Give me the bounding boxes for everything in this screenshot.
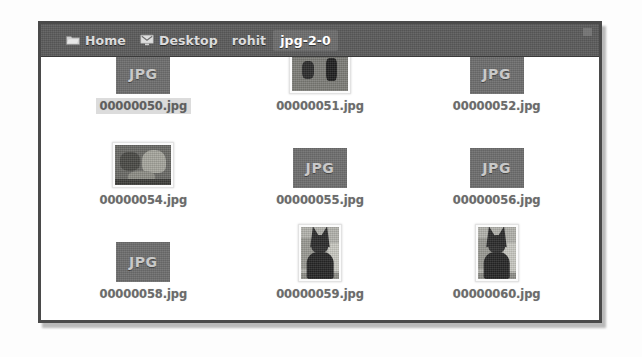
file-name-label: 00000059.jpg	[272, 286, 368, 302]
photo-thumbnail-icon	[112, 142, 174, 188]
jpg-placeholder-icon: JPG	[293, 148, 347, 188]
file-name-label: 00000060.jpg	[449, 286, 545, 302]
breadcrumb[interactable]: Home Desktop rohit jpg-2-0	[41, 24, 599, 57]
file-item[interactable]: JPG 00000056.jpg	[408, 130, 585, 224]
jpg-placeholder-icon: JPG	[116, 54, 170, 94]
photo-thumbnail-icon	[298, 224, 342, 282]
file-thumbnail[interactable]: JPG	[293, 130, 347, 188]
file-name-label: 00000050.jpg	[96, 98, 192, 114]
file-item[interactable]: 00000060.jpg	[408, 224, 585, 318]
jpg-placeholder-icon: JPG	[470, 148, 524, 188]
file-thumbnail[interactable]: JPG	[470, 130, 524, 188]
home-folder-icon	[66, 34, 80, 46]
file-grid-row: JPG 00000058.jpg	[55, 224, 585, 318]
file-item[interactable]: 00000054.jpg	[55, 130, 232, 224]
file-name-label: 00000052.jpg	[449, 98, 545, 114]
file-thumbnail[interactable]	[475, 224, 519, 282]
window-control-nub[interactable]	[583, 28, 592, 36]
breadcrumb-item-home[interactable]: Home	[59, 30, 133, 51]
breadcrumb-label: jpg-2-0	[280, 33, 331, 48]
file-name-label: 00000056.jpg	[449, 192, 545, 208]
file-name-label: 00000054.jpg	[96, 192, 192, 208]
breadcrumb-item-desktop[interactable]: Desktop	[133, 30, 225, 51]
breadcrumb-label: Home	[85, 33, 126, 48]
breadcrumb-item-rohit[interactable]: rohit	[225, 30, 273, 51]
jpg-placeholder-icon: JPG	[116, 242, 170, 282]
file-manager-window: JPG 00000050.jpg 00000051.jpg	[38, 21, 602, 323]
breadcrumb-label: Desktop	[159, 33, 218, 48]
file-name-label: 00000055.jpg	[272, 192, 368, 208]
breadcrumb-item-jpg-2-0[interactable]: jpg-2-0	[273, 30, 338, 51]
file-item[interactable]: 00000059.jpg	[232, 224, 409, 318]
file-thumbnail[interactable]	[112, 130, 174, 188]
file-item[interactable]: JPG 00000058.jpg	[55, 224, 232, 318]
file-name-label: 00000058.jpg	[96, 286, 192, 302]
file-name-label: 00000051.jpg	[272, 98, 368, 114]
file-icon-grid[interactable]: JPG 00000050.jpg 00000051.jpg	[41, 24, 599, 320]
file-item[interactable]: JPG 00000055.jpg	[232, 130, 409, 224]
file-grid-row: 00000054.jpg JPG 00000055.jpg JPG 000000…	[55, 130, 585, 224]
breadcrumb-label: rohit	[232, 33, 266, 48]
file-thumbnail[interactable]: JPG	[116, 224, 170, 282]
desktop-monitor-icon	[140, 34, 154, 46]
file-thumbnail[interactable]	[298, 224, 342, 282]
jpg-placeholder-icon: JPG	[470, 54, 524, 94]
photo-thumbnail-icon	[475, 224, 519, 282]
